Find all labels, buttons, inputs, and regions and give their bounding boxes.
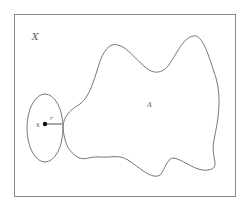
point-label: x [36,121,40,129]
point-x [43,122,47,126]
set-label: A [146,101,152,109]
ball-around-point [27,94,63,162]
diagram-canvas: X x r A [0,0,247,214]
space-label: X [31,32,39,42]
radius-label: r [50,114,54,121]
set-a-boundary [63,36,219,176]
